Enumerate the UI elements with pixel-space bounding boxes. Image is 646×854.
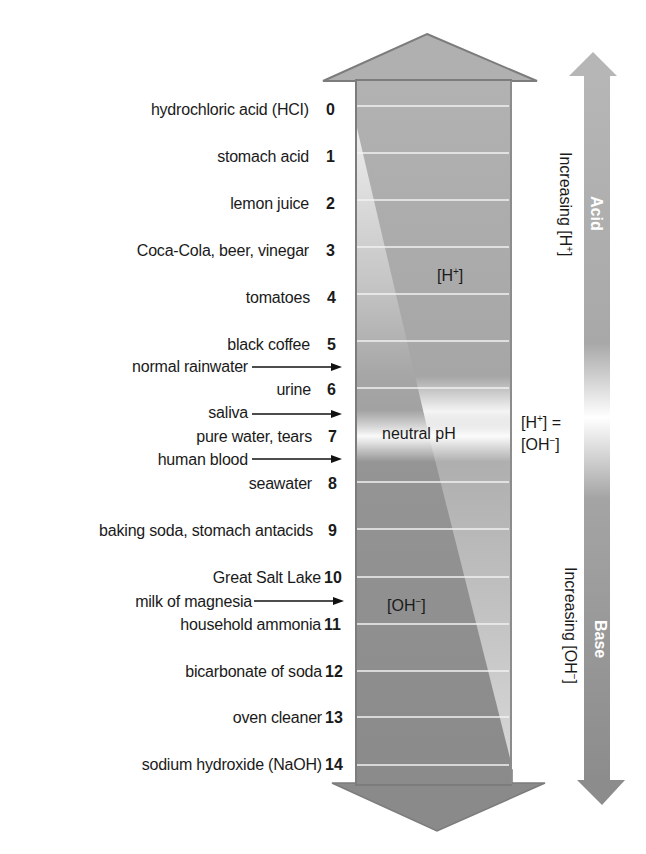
item-label: baking soda, stomach antacids — [99, 522, 313, 540]
item-label: hydrochloric acid (HCI) — [151, 101, 309, 119]
equality-label: [H+] = [OH−] — [521, 412, 561, 456]
ph-number: 6 — [327, 381, 336, 399]
ph-number: 10 — [324, 569, 342, 587]
ph-number: 0 — [326, 101, 335, 119]
ph-number: 7 — [328, 428, 337, 446]
item-label: pure water, tears — [196, 428, 312, 446]
ph-number: 14 — [325, 756, 343, 774]
item-label: Great Salt Lake — [213, 569, 321, 587]
ph-number: 1 — [326, 148, 335, 166]
ph-number: 11 — [324, 616, 341, 634]
ph-number: 4 — [327, 289, 336, 307]
oh-ion-label: [OH−] — [387, 597, 426, 615]
item-label: urine — [276, 381, 311, 399]
item-label: household ammonia — [180, 616, 321, 634]
ph-number: 13 — [325, 709, 343, 727]
ph-number: 3 — [326, 242, 335, 260]
ph-number: 12 — [325, 663, 343, 681]
acid-base-arrow — [569, 52, 625, 805]
ph-number: 5 — [327, 336, 336, 354]
item-label: oven cleaner — [233, 709, 322, 727]
pointer-label-rainwater: normal rainwater — [132, 358, 248, 376]
ph-number: 8 — [328, 475, 337, 493]
increasing-h-label: Increasing [H+] — [556, 152, 574, 257]
item-label: stomach acid — [217, 148, 309, 166]
neutral-ph-label: neutral pH — [382, 425, 456, 443]
ph-number: 2 — [326, 195, 335, 213]
acid-label: Acid — [587, 196, 605, 231]
item-label: bicarbonate of soda — [185, 663, 322, 681]
item-label: lemon juice — [230, 195, 309, 213]
item-label: black coffee — [227, 336, 310, 354]
item-label: tomatoes — [246, 289, 310, 307]
pointer-label-saliva: saliva — [208, 404, 248, 422]
pointer-label-blood: human blood — [158, 451, 248, 469]
increasing-oh-label: Increasing [OH−] — [561, 567, 579, 684]
base-label: Base — [591, 620, 609, 658]
pointer-label-milk-of-magnesia: milk of magnesia — [135, 593, 252, 611]
item-label: sodium hydroxide (NaOH) — [142, 756, 322, 774]
item-label: Coca-Cola, beer, vinegar — [137, 242, 309, 260]
ph-scale-diagram: hydrochloric acid (HCI) 0 stomach acid 1… — [0, 0, 646, 854]
item-label: seawater — [249, 475, 312, 493]
ph-number: 9 — [328, 522, 337, 540]
h-ion-label: [H+] — [437, 267, 463, 285]
